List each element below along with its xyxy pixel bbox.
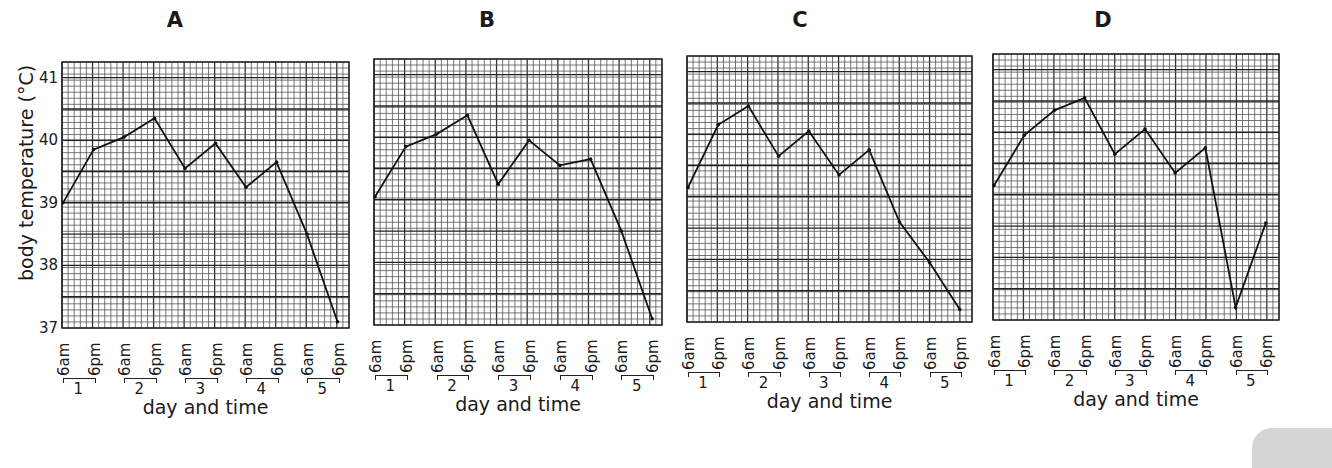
- x-tick-label: 6am: [861, 337, 879, 370]
- x-tick-label: 6pm: [398, 339, 416, 373]
- panel-title-d: D: [1083, 8, 1123, 32]
- x-tick-label: 6am: [1167, 335, 1185, 368]
- x-tick-label: 6am: [680, 337, 698, 370]
- data-point: [928, 261, 932, 265]
- temperature-line-d: [994, 98, 1266, 308]
- x-tick-label: 6pm: [710, 336, 728, 370]
- data-point: [1022, 134, 1026, 138]
- x-tick-label: 6pm: [1197, 334, 1215, 368]
- data-point: [1143, 127, 1147, 131]
- data-point: [1204, 146, 1208, 150]
- x-tick-label: 6am: [922, 337, 940, 370]
- x-tick-label: 6pm: [86, 342, 104, 376]
- data-point: [1053, 109, 1057, 113]
- data-point: [716, 123, 720, 127]
- x-axis-label: day and time: [1036, 388, 1236, 410]
- data-point: [527, 139, 531, 143]
- data-point: [898, 220, 902, 224]
- data-point: [1173, 171, 1177, 175]
- data-point: [92, 148, 96, 152]
- temperature-line-c: [688, 106, 960, 309]
- data-point: [558, 164, 562, 168]
- corner-decoration: [1252, 428, 1332, 468]
- day-number: 5: [312, 380, 332, 398]
- data-point: [958, 308, 962, 312]
- day-number: 1: [68, 380, 88, 398]
- data-point: [620, 229, 624, 233]
- x-tick-label: 6pm: [1258, 334, 1276, 368]
- temperature-line-a: [63, 118, 338, 321]
- x-tick-label: 6am: [490, 340, 508, 373]
- x-tick-label: 6am: [55, 343, 73, 376]
- x-tick-label: 6am: [299, 343, 317, 376]
- x-tick-label: 6am: [429, 340, 447, 373]
- x-tick-label: 6am: [367, 340, 385, 373]
- x-tick-label: 6am: [801, 337, 819, 370]
- x-tick-label: 6pm: [208, 342, 226, 376]
- graph-paper-grid: [374, 59, 662, 325]
- data-point: [122, 135, 126, 139]
- x-axis-label: day and time: [730, 390, 930, 412]
- x-tick-label: 6am: [613, 340, 631, 373]
- x-tick-label: 6pm: [831, 336, 849, 370]
- x-tick-label: 6am: [1228, 335, 1246, 368]
- data-point: [336, 320, 340, 324]
- data-point: [435, 132, 439, 136]
- panel-title-c: C: [780, 8, 820, 32]
- x-tick-label: 6pm: [771, 336, 789, 370]
- x-tick-label: 6am: [552, 340, 570, 373]
- x-axis-label: day and time: [418, 393, 618, 415]
- data-point: [777, 154, 781, 158]
- day-number: 1: [999, 372, 1019, 390]
- data-point: [305, 232, 309, 236]
- graph-paper-grid: [993, 54, 1279, 320]
- x-tick-label: 6am: [1046, 335, 1064, 368]
- x-tick-label: 6am: [1107, 335, 1125, 368]
- graph-paper-grid: [687, 56, 972, 322]
- data-point: [747, 104, 751, 108]
- graph-paper-grid: [62, 62, 349, 328]
- data-point: [650, 317, 654, 321]
- x-tick-label: 6pm: [521, 339, 539, 373]
- x-tick-label: 6pm: [1016, 334, 1034, 368]
- day-number: 5: [627, 377, 647, 395]
- data-point: [1264, 221, 1268, 225]
- data-point: [837, 173, 841, 177]
- data-point: [867, 148, 871, 152]
- data-point: [1083, 96, 1087, 100]
- data-point: [589, 157, 593, 161]
- data-point: [1234, 306, 1238, 310]
- data-point: [807, 129, 811, 133]
- x-tick-label: 6am: [238, 343, 256, 376]
- data-point: [496, 182, 500, 186]
- x-tick-label: 6pm: [147, 342, 165, 376]
- data-point: [373, 195, 377, 199]
- x-tick-label: 6pm: [1137, 334, 1155, 368]
- day-number: 1: [380, 377, 400, 395]
- x-tick-label: 6pm: [583, 339, 601, 373]
- x-tick-label: 6pm: [459, 339, 477, 373]
- x-tick-label: 6am: [740, 337, 758, 370]
- x-tick-label: 6pm: [644, 339, 662, 373]
- x-tick-label: 6pm: [269, 342, 287, 376]
- data-point: [244, 185, 248, 189]
- data-point: [686, 186, 690, 190]
- day-number: 1: [693, 374, 713, 392]
- panel-title-a: A: [155, 8, 195, 32]
- x-tick-label: 6pm: [1077, 334, 1095, 368]
- x-tick-label: 6pm: [330, 342, 348, 376]
- data-point: [466, 114, 470, 118]
- data-point: [61, 201, 65, 205]
- day-number: 5: [935, 374, 955, 392]
- x-tick-label: 6pm: [891, 336, 909, 370]
- data-point: [275, 160, 279, 164]
- x-tick-label: 6am: [116, 343, 134, 376]
- x-tick-label: 6pm: [952, 336, 970, 370]
- data-point: [1113, 152, 1117, 156]
- panel-title-b: B: [467, 8, 507, 32]
- data-point: [183, 167, 187, 171]
- data-point: [214, 142, 218, 146]
- x-axis-label: day and time: [106, 396, 306, 418]
